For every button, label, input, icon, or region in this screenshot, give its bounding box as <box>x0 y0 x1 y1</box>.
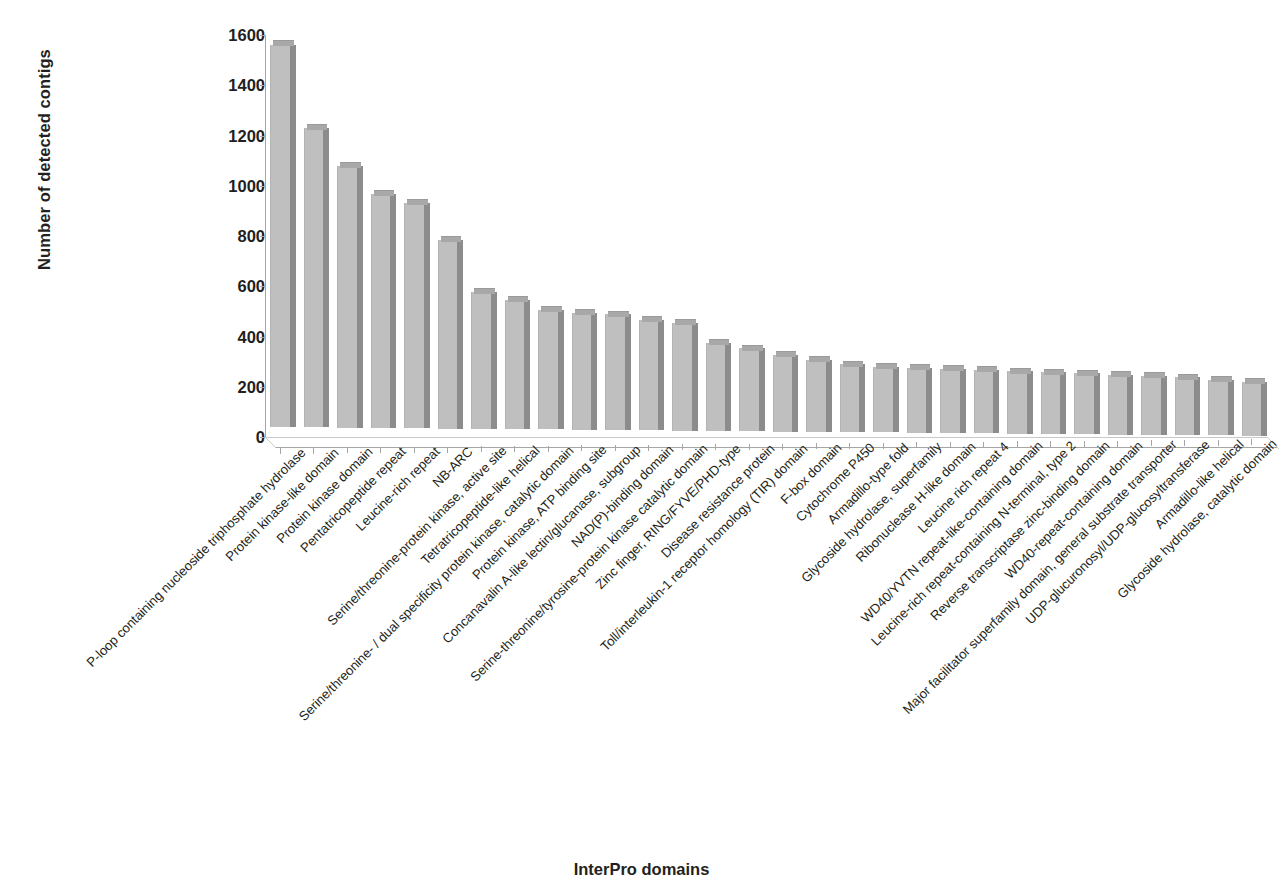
bar[interactable] <box>840 361 861 433</box>
bar-top-face <box>340 162 361 168</box>
y-tick-label: 1200 <box>213 127 265 146</box>
bar[interactable] <box>371 190 392 428</box>
bar-side-face <box>390 194 396 428</box>
bar[interactable] <box>304 124 325 428</box>
bar-top-face <box>1144 372 1165 378</box>
bar-side-face <box>725 343 731 431</box>
y-tick-mark <box>260 337 265 338</box>
bar-front-face <box>1208 380 1230 436</box>
bar[interactable] <box>404 199 425 428</box>
bar[interactable] <box>907 364 928 433</box>
floor-back-edge <box>265 437 1268 438</box>
bar-side-face <box>625 314 631 430</box>
bar[interactable] <box>538 306 559 429</box>
bar-top-face <box>809 356 830 362</box>
bar-top-face <box>843 361 864 367</box>
bar-side-face <box>1228 380 1234 436</box>
bar-front-face <box>1175 377 1197 435</box>
x-category-label-group: P-loop containing nucleoside triphosphat… <box>265 443 1275 843</box>
bar-top-face <box>742 345 763 351</box>
bar[interactable] <box>974 366 995 433</box>
bar-side-face <box>491 292 497 429</box>
bar-side-face <box>558 310 564 429</box>
bar[interactable] <box>1242 378 1263 436</box>
bar-side-face <box>290 45 296 427</box>
bar[interactable] <box>806 356 827 431</box>
bar-front-face <box>605 314 627 430</box>
bar-top-face <box>474 288 495 294</box>
bar-top-face <box>910 364 931 370</box>
bar[interactable] <box>1041 369 1062 434</box>
bar-side-face <box>424 203 430 428</box>
bar[interactable] <box>505 296 526 429</box>
bar-front-face <box>739 348 761 431</box>
bar[interactable] <box>1208 376 1229 436</box>
bar-side-face <box>1127 375 1133 435</box>
y-tick-mark <box>260 387 265 388</box>
bar-side-face <box>692 323 698 431</box>
bar-side-face <box>1261 382 1267 436</box>
bar-top-face <box>642 316 663 322</box>
bar-front-face <box>270 45 292 427</box>
y-tick-label: 600 <box>213 277 265 296</box>
bar[interactable] <box>438 236 459 428</box>
bar-front-face <box>1041 372 1063 434</box>
bar-front-face <box>1242 382 1264 436</box>
bar-top-face <box>675 319 696 325</box>
y-tick-label: 1000 <box>213 177 265 196</box>
y-tick-label: 400 <box>213 328 265 347</box>
bar[interactable] <box>639 316 660 430</box>
bar[interactable] <box>270 40 291 427</box>
bar-top-face <box>374 190 395 196</box>
x-axis-title: InterPro domains <box>0 860 1283 879</box>
x-category-label: P-loop containing nucleoside triphosphat… <box>83 445 308 670</box>
bar-side-face <box>859 364 865 432</box>
bar-side-face <box>357 166 363 427</box>
bar[interactable] <box>1175 374 1196 436</box>
bar[interactable] <box>1141 372 1162 435</box>
bar-top-face <box>441 236 462 242</box>
bar-front-face <box>974 370 996 433</box>
bar-top-face <box>709 339 730 345</box>
bar-side-face <box>658 320 664 431</box>
bar-top-face <box>943 365 964 371</box>
bar-front-face <box>773 355 795 432</box>
bar-side-face <box>1194 377 1200 435</box>
bar[interactable] <box>672 319 693 431</box>
bar-front-face <box>1007 371 1029 433</box>
bar-side-face <box>893 367 899 433</box>
y-tick-label: 800 <box>213 227 265 246</box>
bar[interactable] <box>1074 370 1095 435</box>
bar-top-face <box>1111 371 1132 377</box>
y-tick-label: 1600 <box>213 26 265 45</box>
bar-front-face <box>304 128 326 427</box>
bar-front-face <box>404 203 426 428</box>
bar[interactable] <box>471 288 492 429</box>
bar-top-face <box>977 366 998 372</box>
bar[interactable] <box>773 351 794 431</box>
bar[interactable] <box>1007 368 1028 434</box>
bar[interactable] <box>337 162 358 427</box>
bar[interactable] <box>572 309 593 430</box>
bar-front-face <box>806 360 828 432</box>
bar[interactable] <box>873 363 894 433</box>
bar-front-face <box>840 364 862 432</box>
bar-top-face <box>876 363 897 369</box>
bar-side-face <box>1027 371 1033 433</box>
bar-front-face <box>371 194 393 428</box>
bar-front-face <box>572 313 594 430</box>
bar-side-face <box>960 369 966 433</box>
bar-side-face <box>457 240 463 428</box>
y-axis-line <box>265 35 266 438</box>
bar[interactable] <box>739 345 760 432</box>
bar-top-face <box>1010 368 1031 374</box>
bar-side-face <box>826 360 832 432</box>
bar[interactable] <box>605 311 626 430</box>
y-tick-mark <box>260 186 265 187</box>
bar[interactable] <box>1108 371 1129 435</box>
bar[interactable] <box>706 339 727 431</box>
bar-side-face <box>1060 372 1066 434</box>
bar-front-face <box>873 367 895 433</box>
bar[interactable] <box>940 365 961 433</box>
y-axis-title: Number of detected contigs <box>35 30 54 290</box>
